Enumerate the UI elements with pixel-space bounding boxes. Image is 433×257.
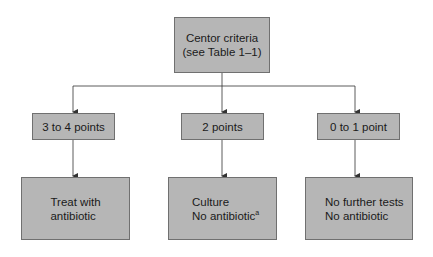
- score-label: 3 to 4 points: [42, 120, 105, 134]
- action-line-1: Treat with: [50, 195, 100, 209]
- action-line-2: antibiotic: [50, 209, 100, 223]
- score-label: 2 points: [202, 120, 242, 134]
- action-line-1: No further tests: [325, 195, 404, 209]
- action-node-treat: Treat with antibiotic: [21, 177, 130, 240]
- action-node-no-further-tests: No further tests No antibiotic: [305, 177, 413, 240]
- score-node-0-to-1: 0 to 1 point: [317, 113, 400, 140]
- score-node-2: 2 points: [181, 113, 264, 140]
- action-line-2: No antibiotic: [325, 209, 404, 223]
- footnote-marker: a: [255, 209, 259, 216]
- root-node-centor-criteria: Centor criteria (see Table 1–1): [174, 17, 270, 73]
- score-node-3-to-4: 3 to 4 points: [32, 113, 115, 140]
- root-line-2: (see Table 1–1): [182, 45, 261, 59]
- score-label: 0 to 1 point: [330, 120, 387, 134]
- action-line-2: No antibiotic: [192, 210, 255, 222]
- root-line-1: Centor criteria: [182, 31, 261, 45]
- action-line-1: Culture: [192, 195, 259, 209]
- action-node-culture: Culture No antibiotica: [168, 177, 277, 240]
